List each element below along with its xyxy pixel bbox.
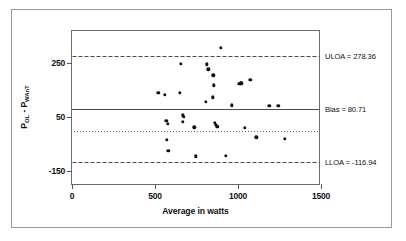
data-point [194,155,197,158]
x-tick-label: 1000 [229,191,247,201]
x-tick-label: 500 [148,191,162,201]
x-tick-mark [72,184,73,189]
data-point [166,122,169,125]
bland-altman-figure: POL - PWAnT 25050-150 050010001500 ULOA … [0,0,406,241]
y-axis-title: POL - PWAnT [19,85,29,128]
x-tick-mark [155,184,156,189]
x-tick-mark [238,184,239,189]
data-point [219,46,222,49]
annotation-bias: Bias = 80.71 [325,104,366,113]
x-tick-label: 1500 [312,191,330,201]
plot-clip [72,31,319,184]
data-point [240,82,243,85]
data-point [165,138,168,141]
y-tick-mark [67,171,72,172]
reference-line-zero [72,131,319,132]
y-tick-mark [67,63,72,64]
data-point [212,74,215,77]
data-point [211,96,214,99]
data-point [248,78,251,81]
data-point [205,62,208,65]
y-tick-label: 50 [56,112,65,122]
data-point [230,103,233,106]
data-point [268,104,271,107]
x-axis-title: Average in watts [71,206,320,216]
data-point [182,115,185,118]
reference-line-uloa [72,56,319,57]
data-point [178,91,181,94]
data-point [166,149,169,152]
annotation-uloa: ULOA = 278.36 [325,51,376,60]
data-point [224,154,227,157]
data-point [216,125,219,128]
annotation-lloa: LLOA = -116.94 [325,158,376,167]
data-point [212,84,215,87]
reference-line-bias [72,109,319,110]
data-point [157,91,160,94]
x-tick-label: 0 [70,191,75,201]
data-point [207,68,210,71]
y-axis-title-sub-ol: OL [24,115,30,123]
y-tick-label: -150 [49,166,65,176]
y-tick-mark [67,117,72,118]
data-point [277,104,280,107]
y-tick-label: 250 [51,58,65,68]
y-axis-title-sub-want: WAnT [24,85,30,102]
data-point [283,137,286,140]
data-point [193,126,196,129]
y-axis-title-mid: - P [19,102,29,115]
data-point [255,136,258,139]
data-point [243,126,246,129]
data-point [163,93,166,96]
plot-area: 25050-150 050010001500 ULOA = 278.36Bias… [71,30,320,185]
data-point [204,100,207,103]
data-point [181,120,184,123]
y-axis-title-prefix: P [19,123,29,129]
reference-line-lloa [72,162,319,163]
data-point [179,62,182,65]
x-tick-mark [321,184,322,189]
